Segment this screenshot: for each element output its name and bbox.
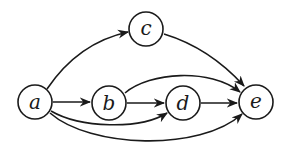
node-label: a	[29, 90, 41, 114]
node-d: d	[166, 86, 200, 120]
node-label: b	[103, 91, 116, 115]
node-label: c	[140, 16, 151, 40]
edge-c-e	[164, 34, 244, 86]
node-label: e	[250, 89, 262, 113]
node-label: d	[177, 91, 190, 115]
node-c: c	[129, 12, 163, 46]
node-e: e	[239, 85, 273, 119]
directed-graph: a b c d e	[0, 0, 292, 145]
edge-a-e	[50, 113, 242, 141]
node-b: b	[92, 86, 126, 120]
node-a: a	[18, 85, 52, 119]
edge-a-c	[47, 32, 128, 89]
